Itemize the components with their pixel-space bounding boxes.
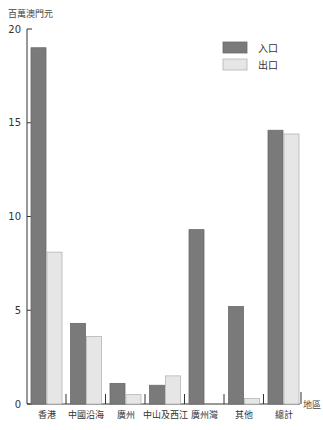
x-tick-label: 香港: [38, 409, 56, 420]
bar-import: [110, 383, 125, 404]
bar-import: [71, 323, 86, 404]
x-tick-label: 中山及西江: [143, 409, 188, 420]
bar-chart: 百萬澳門元 地區 05101520 香港中國沿海廣州中山及西江廣州灣其他總計 入…: [0, 0, 323, 430]
y-axis-title: 百萬澳門元: [8, 8, 53, 19]
bar-export: [87, 337, 102, 405]
x-tick-label: 中國沿海: [68, 409, 104, 420]
y-tick-label: 0: [15, 399, 21, 410]
x-tick-label: 廣州灣: [191, 409, 218, 420]
bar-export: [47, 252, 62, 404]
bar-import: [268, 130, 283, 404]
y-tick-label: 20: [8, 24, 21, 35]
legend-swatch-export: [223, 59, 247, 70]
bar-export: [166, 376, 181, 404]
bar-import: [31, 48, 46, 404]
bar-import: [189, 230, 204, 404]
x-axis-title: 地區: [303, 399, 321, 410]
y-tick-label: 15: [8, 117, 21, 128]
bar-export: [245, 398, 260, 404]
legend-label-export: 出口: [258, 59, 278, 71]
legend-label-import: 入口: [258, 43, 278, 54]
x-tick-label: 總計: [275, 409, 293, 420]
bar-import: [150, 385, 165, 404]
legend-swatch-import: [223, 42, 247, 53]
bar-export: [284, 134, 299, 404]
x-tick-label: 其他: [235, 409, 253, 420]
legend: 入口出口: [223, 42, 278, 71]
bar-import: [229, 307, 244, 405]
bars: [31, 48, 299, 404]
y-tick-label: 5: [15, 305, 21, 316]
y-tick-label: 10: [8, 211, 21, 222]
x-tick-label: 廣州: [117, 409, 135, 420]
bar-export: [126, 395, 141, 404]
x-tick-labels: 香港中國沿海廣州中山及西江廣州灣其他總計: [38, 409, 293, 420]
